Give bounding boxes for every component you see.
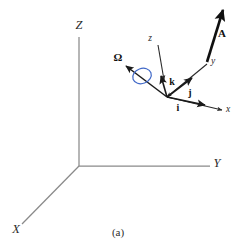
unit-vector-label-j: j	[188, 88, 191, 98]
local-axis-z	[158, 45, 164, 80]
vector-label-omega: Ω	[114, 52, 123, 63]
spin-circle-icon	[131, 66, 154, 87]
global-axis-x	[22, 166, 79, 224]
figure-caption: (a)	[112, 227, 124, 238]
global-axis-label-y: Y	[214, 157, 221, 170]
unit-vector-label-i: i	[177, 103, 180, 113]
local-axis-label-x: x	[226, 105, 230, 115]
local-axis-label-z: z	[148, 34, 152, 44]
local-axis-label-y: y	[211, 57, 215, 67]
unit-vector-i	[167, 97, 205, 105]
unit-vector-label-k: k	[169, 77, 175, 87]
figure-drawing	[0, 0, 244, 251]
global-axis-label-x: X	[12, 223, 20, 236]
vector-label-a: A	[218, 28, 226, 39]
global-axis-label-z: Z	[76, 19, 83, 32]
figure-container: Z Y X z y x k j i A Ω (a)	[0, 0, 244, 251]
